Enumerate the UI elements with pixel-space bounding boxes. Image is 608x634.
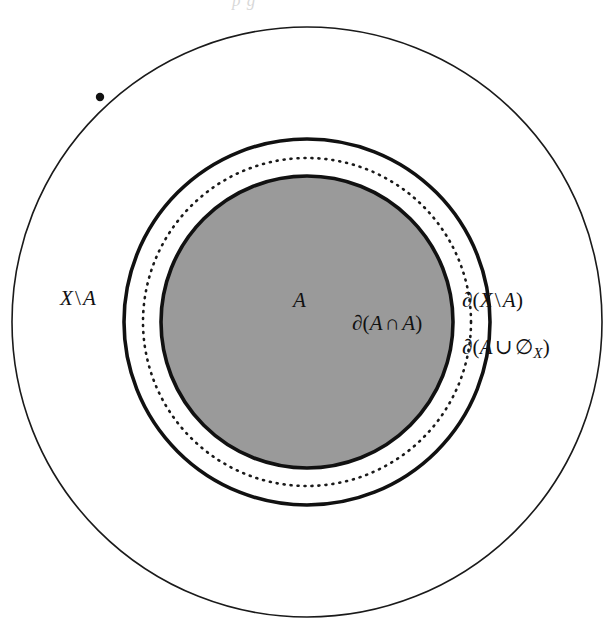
intersection-icon: ∩ xyxy=(383,311,402,335)
partial-icon: ∂ xyxy=(462,288,473,312)
label-boundary-a-cup-empty: ∂(A∪∅X) xyxy=(462,337,550,361)
label-open-paren: ( xyxy=(473,288,480,312)
label-boundary-x-minus-a: ∂(X\A) xyxy=(462,290,523,311)
partial-icon: ∂ xyxy=(352,311,363,335)
label-x-minus-a-operator: \ xyxy=(73,286,83,310)
point-on-outer-circle-marker xyxy=(96,93,104,101)
label-close-paren: ) xyxy=(415,311,422,335)
label-set-a: A xyxy=(293,290,306,311)
label-right-operand: A xyxy=(503,288,516,312)
label-x-minus-a-set: X xyxy=(60,286,73,310)
label-open-paren: ( xyxy=(473,335,480,359)
label-boundary-a-cap-a: ∂(A∩A) xyxy=(352,313,422,334)
label-left-operand: A xyxy=(370,311,383,335)
top-clipped-caption: p g xyxy=(232,0,256,11)
label-open-paren: ( xyxy=(363,311,370,335)
label-close-paren: ) xyxy=(543,335,550,359)
label-empty-set-subscript: X xyxy=(533,345,543,361)
label-right-operand: A xyxy=(402,311,415,335)
boundary-diagram-figure xyxy=(0,0,608,634)
label-left-operand: A xyxy=(480,335,493,359)
partial-icon: ∂ xyxy=(462,335,473,359)
set-minus-icon: \ xyxy=(493,288,503,312)
label-x-minus-a-subset: A xyxy=(83,286,96,310)
label-close-paren: ) xyxy=(516,288,523,312)
union-icon: ∪ xyxy=(493,335,515,359)
label-left-operand: X xyxy=(480,288,493,312)
label-x-minus-a: X\A xyxy=(60,288,96,309)
empty-set-icon: ∅ xyxy=(515,335,533,359)
